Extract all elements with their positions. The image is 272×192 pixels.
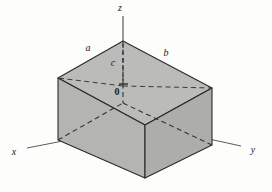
figure-container: z x y a b c 0 <box>0 0 272 192</box>
y-axis-label: y <box>250 144 256 155</box>
edge-c-label: c <box>111 57 116 68</box>
edge-a-label: a <box>86 42 91 53</box>
z-axis-label: z <box>117 2 122 13</box>
x-axis-label: x <box>11 146 17 157</box>
origin-label: 0 <box>115 86 120 97</box>
edge-b-label: b <box>164 47 169 58</box>
box-diagram: z x y a b c 0 <box>0 0 272 192</box>
